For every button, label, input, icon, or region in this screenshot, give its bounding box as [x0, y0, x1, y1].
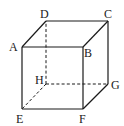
cube-diagram: A B C D E F G H: [0, 0, 124, 126]
vertex-label-H: H: [35, 73, 44, 87]
vertex-label-G: G: [111, 78, 120, 92]
edge-AD: [22, 21, 46, 47]
edge-CB: [83, 21, 108, 47]
edge-HE: [22, 84, 46, 109]
vertex-label-F: F: [79, 112, 86, 126]
vertex-label-D: D: [40, 7, 49, 21]
vertex-label-C: C: [104, 7, 112, 21]
vertex-label-A: A: [9, 40, 18, 54]
vertex-label-E: E: [16, 112, 23, 126]
edge-GF: [83, 84, 108, 109]
cube-figure: A B C D E F G H: [0, 0, 124, 126]
vertex-label-B: B: [84, 46, 92, 60]
